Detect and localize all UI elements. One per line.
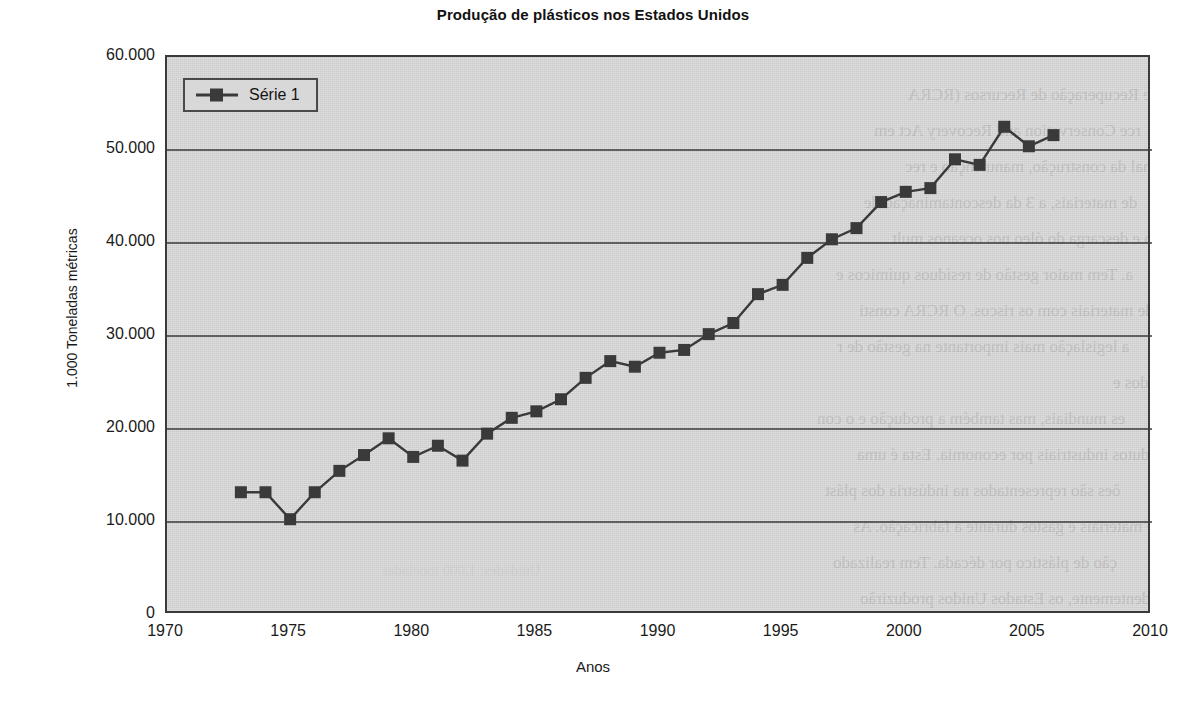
x-axis-tick-label: 1970 xyxy=(120,622,210,640)
legend: Série 1 xyxy=(183,78,318,112)
y-axis-tick-label: 10.000 xyxy=(45,511,155,529)
x-axis-title: Anos xyxy=(0,658,1186,675)
legend-entry-label: Série 1 xyxy=(249,86,300,104)
chart-title: Produção de plásticos nos Estados Unidos xyxy=(0,6,1186,23)
legend-marker-icon xyxy=(195,87,239,103)
plot-area: ção e Recuperação de Recursos (RCRArce C… xyxy=(165,55,1150,613)
y-axis-tick-label: 50.000 xyxy=(45,139,155,157)
y-axis-title: 1.000 Toneladas métricas xyxy=(64,158,80,458)
x-axis-tick-label: 1995 xyxy=(736,622,826,640)
y-axis-tick-label: 30.000 xyxy=(45,325,155,343)
x-axis-tick-label: 2010 xyxy=(1105,622,1186,640)
y-axis-tick-label: 0 xyxy=(45,604,155,622)
chart-root: Produção de plásticos nos Estados Unidos… xyxy=(0,0,1186,710)
y-axis-tick-label: 20.000 xyxy=(45,418,155,436)
y-axis-tick-label: 60.000 xyxy=(45,46,155,64)
x-axis-tick-label: 1980 xyxy=(366,622,456,640)
x-axis-tick-label: 2000 xyxy=(859,622,949,640)
x-axis-tick-label: 1975 xyxy=(243,622,333,640)
data-series-line xyxy=(167,57,1152,615)
y-axis-tick-label: 40.000 xyxy=(45,232,155,250)
x-axis-tick-label: 1985 xyxy=(489,622,579,640)
y-axis-tick-labels: 010.00020.00030.00040.00050.00060.000 xyxy=(35,0,155,710)
x-axis-tick-label: 1990 xyxy=(613,622,703,640)
x-axis-tick-label: 2005 xyxy=(982,622,1072,640)
